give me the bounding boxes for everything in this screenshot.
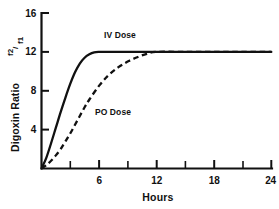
y-axis-ticks [42,13,50,130]
x-tick-label-6: 6 [96,175,102,186]
axis-lines [42,13,273,169]
chart-plot-area: Digoxin Ratio f2 / f1 16 12 8 4 [0,0,279,209]
x-tick-label-18: 18 [209,175,220,186]
iv-dose-curve [42,52,272,169]
y-tick-label-12: 12 [25,46,36,57]
x-axis-ticks [70,160,271,169]
x-tick-label-12: 12 [151,175,162,186]
po-dose-label: PO Dose [95,107,131,117]
y-axis-title-text: Digoxin Ratio [9,83,21,152]
y-axis-title: Digoxin Ratio f2 / f1 [6,36,25,152]
y-tick-label-8: 8 [31,85,37,96]
y-axis-title-slash: / [11,46,20,49]
x-tick-label-24: 24 [265,175,276,186]
iv-dose-label: IV Dose [104,30,136,40]
y-tick-label-4: 4 [31,124,37,135]
x-axis-title: Hours [142,191,173,203]
y-axis-title-denominator: f1 [16,36,25,44]
y-tick-label-16: 16 [25,8,36,19]
digoxin-ratio-chart: Digoxin Ratio f2 / f1 16 12 8 4 [0,0,279,209]
